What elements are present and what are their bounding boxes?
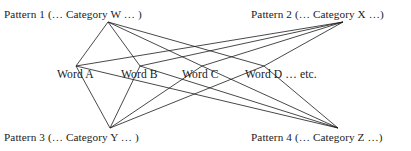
- node-label-pattern-1: Pattern 1 (… Category W … ): [4, 8, 142, 20]
- node-label-word-b: Word B: [121, 68, 158, 81]
- edge-pattern1-to-wordB: [108, 22, 140, 66]
- edge-pattern1-to-wordA: [76, 22, 108, 66]
- node-label-word-a: Word A: [57, 68, 94, 81]
- node-label-pattern-3: Pattern 3 (… Category Y … ): [4, 131, 139, 143]
- node-label-word-c: Word C: [182, 68, 219, 81]
- node-label-word-d: Word D … etc.: [245, 68, 317, 81]
- node-label-pattern-4: Pattern 4 (… Category Z …): [251, 131, 383, 143]
- edge-pattern2-to-wordC: [202, 22, 343, 66]
- edge-pattern1-to-wordC: [108, 22, 202, 66]
- node-label-pattern-2: Pattern 2 (… Category X …): [251, 8, 384, 20]
- diagram-canvas: Pattern 1 (… Category W … ) Pattern 2 (……: [0, 0, 411, 151]
